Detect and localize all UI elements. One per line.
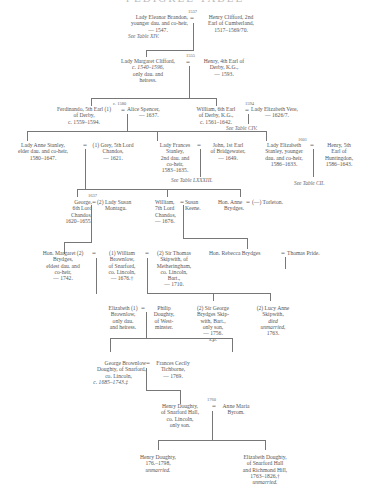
- descent-line: [146, 368, 147, 390]
- marriage-sign: =: [281, 250, 285, 257]
- marriage-sign: =: [92, 250, 96, 257]
- person-lucy-anne-skipwith: (2) Lucy Anne Skipwith, died unmarried, …: [248, 305, 298, 336]
- descent-line: [27, 131, 28, 141]
- person-margaret-brydges: Hon. Margaret (2) Brydges, eldest dau. a…: [34, 250, 92, 281]
- marriage-sign: =: [197, 142, 201, 149]
- person-henry-4th-earl-derby: Henry, 4th Earl of Derby, K.G., — 1593.: [192, 58, 256, 77]
- marriage-sign: =: [246, 199, 250, 206]
- pedigree-page: PEDIGREE TABLE 1537 Lady Eleanor Brandon…: [0, 0, 368, 489]
- person-thomas-pride: Thomas Pride.: [287, 250, 337, 256]
- person-alice-spencer: Alice Spencer, — 1637.: [127, 106, 187, 119]
- person-henry-doughty-snarford: Henry Doughty, of Snarford Hall, co. Lin…: [150, 403, 210, 428]
- person-susan-montagu: (2) Lady Susan Montagu.: [97, 199, 147, 212]
- person-thomas-skipwith: (2) Sir Thomas Skipwith, of Metheringham…: [150, 250, 198, 288]
- descent-line: [146, 312, 147, 338]
- descent-line: [147, 293, 271, 294]
- descent-line: [189, 66, 190, 98]
- person-henry-clifford: Henry Clifford, 2nd Earl of Cumberland, …: [196, 14, 266, 33]
- descent-line: [91, 98, 92, 106]
- person-frances-stanley: Lady Frances Stanley, 2nd dau. and co-he…: [150, 142, 200, 173]
- descent-line: [240, 189, 241, 197]
- person-ferdinando-5th-earl: Ferdinando, 5th Earl (1) of Derby, c. 15…: [44, 106, 124, 125]
- person-anne-stanley: Lady Anne Stanley, elder dau. and co-hei…: [2, 142, 84, 161]
- descent-line: [146, 50, 147, 57]
- descent-line: [157, 131, 158, 141]
- descent-line: [146, 390, 181, 391]
- descent-line: [247, 238, 248, 249]
- descent-line: [77, 189, 241, 190]
- descent-line: [200, 149, 201, 177]
- descent-line: [85, 149, 86, 189]
- marriage-sign: =: [92, 199, 96, 206]
- descent-line: [110, 338, 233, 339]
- person-elizabeth-brownlow: Elizabeth (1) Brownlow, only dau. and he…: [100, 305, 146, 330]
- descent-line: [212, 411, 213, 440]
- descent-line: [27, 131, 267, 132]
- person-anne-maria-byrom: Anne Maria Byrom.: [216, 403, 256, 416]
- descent-line: [193, 23, 194, 50]
- marriage-sign: =: [145, 250, 149, 257]
- marriage-sign: =: [186, 59, 190, 66]
- person-grey-5th-lord-chandos: (1) Grey, 5th Lord Chandos, — 1621.: [88, 142, 138, 161]
- marriage-sign: =: [121, 107, 125, 114]
- descent-line: [248, 114, 249, 124]
- person-william-brownlow: (1) William Brownlow, of Snarford, co. L…: [100, 250, 144, 281]
- marriage-sign: =: [190, 15, 194, 22]
- person-rebecca-brydges: Hon. Rebecca Brydges: [209, 250, 281, 256]
- marriage-sign: =: [245, 107, 249, 114]
- person-torleton: (—) Torleton.: [252, 199, 302, 205]
- descent-line: [146, 50, 194, 51]
- person-george-brownlow-doughty: George Brownlow Doughty, of Snarford, co…: [68, 360, 146, 385]
- person-henry-doughty-son: Henry Doughty, 176.–1798, unmarried.: [128, 454, 188, 473]
- page-title: PEDIGREE TABLE: [120, 0, 250, 2]
- marriage-sign: =: [310, 142, 314, 149]
- descent-line: [265, 440, 266, 450]
- descent-line: [216, 98, 217, 106]
- person-frances-cecily-tichborne: Frances Cecily Tichborne, — 1769.: [150, 360, 196, 379]
- descent-line: [96, 258, 97, 294]
- person-william-6th-earl: William, 6th Earl of Derby, K.G., c. 156…: [186, 106, 246, 125]
- person-elizabeth-stanley: Lady Elizabeth Stanley, younger dau. and…: [256, 142, 312, 167]
- descent-line: [127, 114, 128, 131]
- person-philip-doughty: Philip Doughty, of West- minster.: [148, 305, 180, 330]
- descent-line: [183, 205, 184, 238]
- descent-line: [158, 440, 159, 450]
- person-eleanor-brandon: Lady Eleanor Brandon, younger dau. and c…: [108, 14, 188, 33]
- descent-line: [266, 131, 267, 141]
- descent-line: [213, 293, 214, 301]
- person-elizabeth-doughty: Elizabeth Doughty, of Snarford Hall and …: [232, 454, 298, 485]
- person-margaret-clifford: Lady Margaret Clifford, c. 1540–1596, on…: [108, 58, 188, 83]
- person-george-6th-lord-chandos: George, 6th Lord Chandos, 1620–1655.: [58, 199, 92, 224]
- descent-line: [232, 338, 233, 352]
- person-elizabeth-vere: Lady Elizabeth Vere, — 1626/7.: [251, 106, 323, 119]
- descent-line: [91, 98, 217, 99]
- see-table-ref: See Table LXXXIII.: [171, 177, 213, 183]
- descent-line: [110, 338, 111, 352]
- person-henry-5th-earl-huntingdon: Henry, 5th Earl of Huntingdon, 1586–1643…: [316, 142, 362, 167]
- descent-line: [64, 242, 92, 243]
- person-susan-keene: Susan Keene.: [185, 199, 215, 212]
- descent-line: [183, 238, 248, 239]
- see-table-ref: See Table XIV.: [128, 33, 159, 39]
- descent-line: [313, 149, 314, 177]
- descent-line: [167, 189, 168, 197]
- marriage-sign: =: [141, 305, 145, 312]
- person-john-1st-earl-bridgewater: John, 1st Earl of Bridgewater, — 1649.: [202, 142, 254, 161]
- descent-line: [91, 205, 92, 242]
- descent-line: [180, 390, 181, 404]
- descent-line: [158, 440, 266, 441]
- descent-line: [285, 257, 286, 269]
- descent-line: [147, 258, 148, 294]
- descent-line: [270, 293, 271, 301]
- descent-line: [77, 189, 78, 197]
- see-table-ref: See Table CII.: [294, 180, 325, 186]
- marriage-sign: =: [83, 142, 87, 149]
